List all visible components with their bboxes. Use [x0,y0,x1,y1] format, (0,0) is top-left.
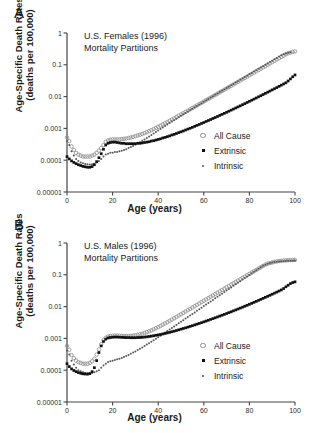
panel-a-plot-title: U.S. Females (1996) Mortality Partitions [84,30,167,54]
y-tick-label: 0.00001 [37,189,62,196]
legend-label: Extrinsic [214,356,246,366]
legend-row: All Cause [198,338,250,353]
y-tick-label: 0.01 [48,93,62,100]
panel-a-title-line2: Mortality Partitions [84,42,167,54]
panel-b-legend: All CauseExtrinsicIntrinsic [198,338,250,383]
mortality-partitions-figure: A Age-Specific Death Rates (deaths per 1… [0,0,309,433]
y-tick-label: 0.001 [44,125,62,132]
panel-b-x-axis-label: Age (years) [0,412,309,423]
open-circle-icon [198,133,208,139]
series-all-cause [65,258,297,365]
y-tick-label: 1 [58,240,62,247]
legend-label: All Cause [214,341,250,351]
legend-row: Intrinsic [198,368,250,383]
panel-b-plot-title: U.S. Males (1996) Mortality Partitions [84,240,158,264]
y-tick-label: 0.0001 [41,367,63,374]
y-tick-label: 0.0001 [41,157,63,164]
legend-row: Extrinsic [198,353,250,368]
panel-b: B Age-Specific Death Rates (deaths per 1… [0,216,309,432]
y-tick-label: 0.01 [48,303,62,310]
series-extrinsic [66,74,297,169]
filled-square-icon [198,149,208,152]
legend-label: Intrinsic [214,161,243,171]
legend-row: All Cause [198,128,250,143]
panel-a-title-line1: U.S. Females (1996) [84,30,167,42]
panel-b-title-line1: U.S. Males (1996) [84,240,158,252]
panel-a-x-axis-label: Age (years) [0,203,309,214]
legend-label: Intrinsic [214,371,243,381]
y-tick-label: 1 [58,30,62,37]
legend-label: All Cause [214,131,250,141]
legend-row: Extrinsic [198,143,250,158]
legend-row: Intrinsic [198,158,250,173]
y-tick-label: 0.00001 [37,399,62,406]
y-tick-label: 0.001 [44,335,62,342]
series-extrinsic [66,281,297,376]
open-circle-icon [198,343,208,349]
y-tick-label: 0.1 [52,61,62,68]
series-intrinsic [66,260,296,375]
small-dot-icon [198,375,208,377]
filled-square-icon [198,359,208,362]
legend-label: Extrinsic [214,146,246,156]
series-all-cause [65,50,297,159]
panel-a-legend: All CauseExtrinsicIntrinsic [198,128,250,173]
panel-b-title-line2: Mortality Partitions [84,252,158,264]
panel-a: A Age-Specific Death Rates (deaths per 1… [0,0,309,216]
y-tick-label: 0.1 [52,271,62,278]
small-dot-icon [198,165,208,167]
